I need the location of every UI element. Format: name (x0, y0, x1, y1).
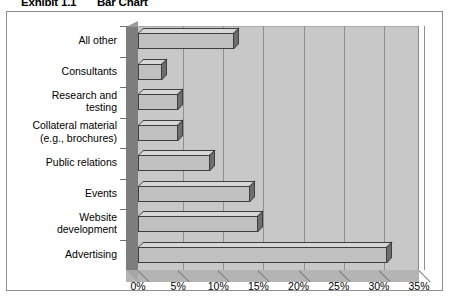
bar-front-face (138, 94, 178, 110)
y-axis-label-collateral-material: Collateral material (e.g., brochures) (9, 119, 117, 144)
x-axis-label-35: 35% (399, 280, 439, 292)
x-axis-label-10: 10% (198, 280, 238, 292)
bar-front-face (138, 125, 178, 141)
gridline-10 (223, 26, 224, 270)
x-axis-label-0: 0% (118, 280, 158, 292)
bar-side-face (178, 119, 183, 141)
bar (138, 242, 392, 263)
y-axis-label-public-relations: Public relations (9, 156, 117, 169)
page-title: Bar Chart (97, 0, 148, 8)
bar (138, 28, 239, 49)
exhibit-number-label: Exhibit 1.1 (21, 0, 76, 8)
y-axis-tick-6 (120, 209, 127, 210)
bar-front-face (138, 64, 162, 80)
chart-left-wall-top-bevel (126, 21, 138, 27)
chart-left-wall (126, 26, 138, 270)
gridline-30 (384, 26, 385, 270)
y-axis-label-consultants: Consultants (9, 65, 117, 78)
gridline-25 (344, 26, 345, 270)
bar (138, 120, 183, 141)
bar-front-face (138, 216, 258, 232)
gridline-35 (424, 26, 425, 270)
bar-side-face (162, 58, 167, 80)
y-axis-tick-4 (120, 148, 127, 149)
x-axis-label-25: 25% (319, 280, 359, 292)
y-axis-tick-7 (120, 240, 127, 241)
y-axis-tick-1 (120, 57, 127, 58)
gridline-5 (183, 26, 184, 270)
y-axis-tick-0 (120, 26, 127, 27)
bar-front-face (138, 247, 387, 263)
gridline-20 (304, 26, 305, 270)
y-axis-tick-3 (120, 118, 127, 119)
y-axis-label-website: Website development (9, 211, 117, 236)
bar-chart-plot-area: All otherConsultantsResearch and testing… (7, 12, 444, 292)
bar-front-face (138, 155, 210, 171)
x-axis-label-30: 30% (359, 280, 399, 292)
bar-side-face (250, 180, 255, 202)
y-axis-tick-2 (120, 87, 127, 88)
x-axis-label-20: 20% (279, 280, 319, 292)
bar (138, 181, 255, 202)
bar-side-face (234, 28, 239, 50)
bar-front-face (138, 186, 250, 202)
chart-back-wall (137, 26, 419, 270)
gridline-15 (263, 26, 264, 270)
bar (138, 59, 167, 80)
bar-side-face (178, 89, 183, 111)
bar (138, 89, 183, 110)
bar-side-face (387, 241, 392, 263)
bar-side-face (210, 150, 215, 172)
y-axis-label-advertising: Advertising (9, 248, 117, 261)
y-axis-tick-5 (120, 179, 127, 180)
x-axis-label-15: 15% (238, 280, 278, 292)
chart-frame: All otherConsultantsResearch and testing… (6, 11, 443, 291)
x-axis-label-5: 5% (158, 280, 198, 292)
y-axis-label-all-other: All other (9, 34, 117, 47)
bar (138, 150, 215, 171)
bar-front-face (138, 33, 234, 49)
y-axis-label-events: Events (9, 187, 117, 200)
bar-side-face (258, 211, 263, 233)
y-axis-label-research-and: Research and testing (9, 89, 117, 114)
bar (138, 211, 263, 232)
